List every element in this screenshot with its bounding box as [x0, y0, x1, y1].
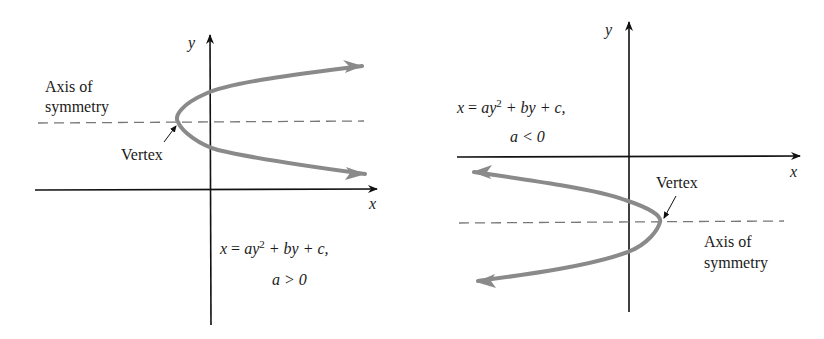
right-axis-of-symmetry-label-1: Axis of — [704, 233, 752, 250]
right-equation: x = ay2 + by + c, — [456, 97, 566, 117]
left-y-axis-label: y — [186, 34, 196, 52]
right-axis-of-symmetry-label-2: symmetry — [704, 254, 768, 272]
parabola-diagram: y x Axis of symmetry Vertex x = ay2 + by… — [0, 0, 824, 339]
right-graph: y x Vertex Axis of symmetry x = ay2 + by… — [456, 21, 800, 312]
left-axis-of-symmetry-label-1: Axis of — [45, 78, 93, 95]
left-y-axis — [210, 35, 211, 325]
left-x-axis-label: x — [368, 195, 376, 212]
left-equation: x = ay2 + by + c, — [219, 238, 329, 258]
left-vertex-pointer — [164, 126, 176, 142]
left-axis-of-symmetry-line — [38, 121, 364, 123]
right-condition: a < 0 — [510, 128, 545, 145]
left-axis-of-symmetry-label-2: symmetry — [45, 98, 109, 116]
right-parabola-arrowhead-top — [472, 165, 492, 179]
left-vertex-label: Vertex — [121, 146, 163, 163]
right-parabola-arrowhead-bottom — [476, 274, 496, 288]
left-parabola-curve — [177, 66, 365, 174]
right-axis-of-symmetry-line — [459, 221, 784, 223]
right-y-axis-label: y — [603, 21, 613, 39]
right-parabola-curve — [474, 172, 660, 281]
left-x-axis — [35, 189, 377, 190]
right-vertex-pointer — [664, 196, 676, 218]
right-x-axis-label: x — [789, 163, 797, 180]
right-vertex-label: Vertex — [656, 174, 698, 191]
left-condition: a > 0 — [272, 271, 307, 288]
left-graph: y x Axis of symmetry Vertex x = ay2 + by… — [35, 34, 377, 325]
